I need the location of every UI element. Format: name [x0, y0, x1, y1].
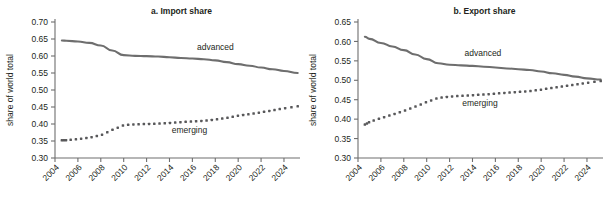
panel-b-x-tick-label: 2006 — [366, 162, 387, 183]
panel-a-data-dot — [290, 106, 293, 109]
panel-b-data-dot — [393, 113, 396, 116]
panel-a-y-tick-label: 0.55 — [31, 68, 48, 78]
panel-a-data-dot — [242, 114, 245, 117]
panel-b-data-dot — [498, 92, 501, 95]
panel-a-data-dot — [179, 121, 182, 124]
panel-a-x-tick-label: 2012 — [132, 162, 153, 183]
panel-b-title: b. Export share — [454, 6, 516, 16]
panel-a-data-dot — [116, 126, 119, 129]
panel-a-data-dot — [80, 137, 83, 140]
panel-b-data-dot — [388, 114, 391, 117]
panel-b-x-tick-label: 2008 — [389, 162, 410, 183]
panel-a-data-dot — [75, 138, 78, 141]
panel-a-data-dot — [268, 110, 271, 113]
panel-b-x-tick-label: 2012 — [435, 162, 456, 183]
panel-b-x-tick-label: 2016 — [481, 162, 502, 183]
panel-a-x-tick-label: 2018 — [201, 162, 222, 183]
panel-b-data-dot — [482, 93, 485, 96]
panel-a-y-tick-label: 0.50 — [31, 85, 48, 95]
panel-a-chart: a. Import shareshare of world total0.300… — [0, 0, 303, 205]
panel-b-data-dot — [446, 96, 449, 99]
panel-b-data-dot — [467, 94, 470, 97]
panel-b-data-dot — [581, 82, 584, 85]
panel-b-x-tick-label: 2014 — [458, 162, 479, 183]
panel-b-data-dot — [519, 91, 522, 94]
panel-b-data-dot — [587, 81, 590, 84]
panel-a-data-dot — [205, 119, 208, 122]
panel-a-data-dot — [111, 129, 114, 132]
panel-a-y-tick-label: 0.65 — [31, 34, 48, 44]
panel-a-series-advanced-line — [62, 41, 298, 73]
panel-b-data-dot — [561, 85, 564, 88]
panel-b-data-dot — [529, 90, 532, 93]
panel-b-y-tick-label: 0.30 — [334, 153, 351, 163]
panel-a-data-dot — [148, 123, 151, 126]
panel-b-data-dot — [456, 95, 459, 98]
panel-b: b. Export shareshare of world total0.300… — [303, 0, 606, 205]
panel-a-y-tick-label: 0.60 — [31, 51, 48, 61]
panel-b-chart: b. Export shareshare of world total0.300… — [303, 0, 606, 205]
panel-a-data-dot — [101, 133, 104, 136]
panel-a-x-tick-label: 2010 — [109, 162, 130, 183]
panel-a-y-tick-label: 0.30 — [31, 153, 48, 163]
panel-a-data-dot — [247, 113, 250, 116]
panel-b-data-dot — [383, 116, 386, 119]
panel-a-title: a. Import share — [151, 6, 212, 16]
panel-b-data-dot — [461, 95, 464, 98]
panel-a-data-dot — [258, 111, 261, 114]
panel-b-data-dot — [524, 90, 527, 93]
panel-a-x-tick-label: 2014 — [155, 162, 176, 183]
panel-b-data-dot — [534, 89, 537, 92]
panel-a-data-dot — [195, 120, 198, 123]
panel-a-data-dot — [200, 120, 203, 123]
panel-a-data-dot — [252, 112, 255, 115]
panel-b-x-tick-label: 2004 — [343, 162, 364, 183]
panel-b-x-tick-label: 2022 — [550, 162, 571, 183]
panel-b-y-tick-label: 0.35 — [334, 134, 351, 144]
panel-a-data-dot — [143, 123, 146, 126]
panel-a-x-tick-label: 2024 — [269, 162, 290, 183]
panel-b-y-tick-label: 0.60 — [334, 37, 351, 47]
panel-b-data-dot — [472, 94, 475, 97]
panel-b-data-dot — [378, 118, 381, 121]
panel-b-series-label-advanced: advanced — [464, 48, 501, 58]
panel-a-data-dot — [122, 124, 125, 127]
panel-b-data-dot — [571, 84, 574, 87]
panel-b-data-dot — [419, 103, 422, 106]
panel-a-series-label-emerging: emerging — [172, 125, 208, 135]
panel-b-data-dot — [440, 96, 443, 99]
panel-a-data-dot — [278, 108, 281, 111]
panel-b-data-dot — [409, 107, 412, 110]
figure-two-panel-trade-shares: a. Import shareshare of world total0.300… — [0, 0, 606, 205]
panel-b-x-tick-label: 2020 — [527, 162, 548, 183]
panel-a: a. Import shareshare of world total0.300… — [0, 0, 303, 205]
panel-a-data-dot — [263, 111, 266, 114]
panel-b-data-dot — [555, 86, 558, 89]
panel-a-data-dot — [96, 135, 99, 138]
panel-a-data-dot — [184, 121, 187, 124]
panel-b-data-dot — [540, 88, 543, 91]
panel-b-data-dot — [399, 111, 402, 114]
panel-a-x-tick-label: 2004 — [40, 162, 61, 183]
panel-b-data-dot — [451, 95, 454, 98]
panel-b-data-dot — [593, 81, 596, 84]
panel-a-data-dot — [106, 131, 109, 134]
panel-b-data-dot — [493, 93, 496, 96]
panel-b-series-label-emerging: emerging — [462, 98, 498, 108]
panel-a-data-dot — [221, 117, 224, 120]
panel-a-data-dot — [284, 107, 287, 110]
panel-b-data-dot — [599, 80, 602, 83]
panel-a-data-dot — [158, 122, 161, 125]
panel-a-data-dot — [231, 115, 234, 118]
panel-a-data-dot — [164, 122, 167, 125]
panel-a-data-dot — [132, 123, 135, 126]
panel-a-data-dot — [216, 118, 219, 121]
panel-a-data-dot — [137, 123, 140, 126]
panel-a-data-dot — [226, 116, 229, 119]
panel-a-x-tick-label: 2006 — [63, 162, 84, 183]
panel-b-x-tick-label: 2024 — [572, 162, 593, 183]
panel-b-data-dot — [404, 109, 407, 112]
panel-a-y-tick-label: 0.35 — [31, 136, 48, 146]
panel-a-data-dot — [174, 121, 177, 124]
panel-a-data-dot — [65, 139, 68, 142]
